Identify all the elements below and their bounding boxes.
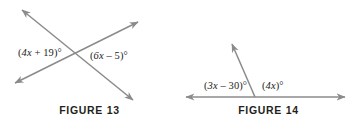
figure-14-right-angle-variable: 4x — [266, 80, 276, 91]
figure-13-caption: FIGURE 13 — [0, 104, 179, 116]
figure-14-caption: FIGURE 14 — [179, 104, 358, 116]
figure-13-right-angle-label: (6x – 5)° — [90, 50, 128, 61]
figure-14-left-angle-variable: 3x — [208, 80, 218, 91]
figure-14-right-angle-label: (4x)° — [262, 80, 284, 91]
figure-13-right-angle-variable: 6x — [94, 50, 104, 61]
figure-14-left-angle-label: (3x – 30)° — [204, 80, 247, 91]
geometry-figure-board: (4x + 19)° (6x – 5)° (3x – 30)° (4x)° FI… — [0, 0, 358, 124]
figure-13-left-angle-variable: 4x — [22, 47, 32, 58]
figure-13-left-angle-label: (4x + 19)° — [18, 47, 62, 58]
